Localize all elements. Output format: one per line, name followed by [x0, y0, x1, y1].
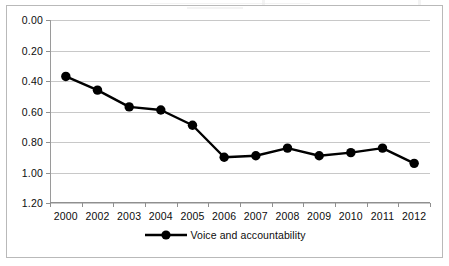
chart-legend: Voice and accountability: [7, 228, 442, 242]
scan-artifact: [150, 3, 310, 4]
scan-artifact: [418, 0, 421, 5]
plot-inner: 0.000.200.400.600.801.001.20 20002002200…: [50, 20, 430, 203]
y-axis-tick-label: 0.80: [22, 136, 43, 148]
x-axis-tick-label: 2008: [275, 210, 299, 222]
x-axis-tick-label: 2000: [54, 210, 78, 222]
data-point-marker: [409, 159, 418, 168]
data-point-marker: [378, 143, 387, 152]
y-axis-tick-label: 0.20: [22, 45, 43, 57]
x-axis-tick-mark: [367, 203, 368, 207]
x-axis-tick-mark: [303, 203, 304, 207]
data-point-marker: [61, 72, 70, 81]
line-marker-icon: [143, 228, 189, 242]
x-axis-tick-mark: [398, 203, 399, 207]
series-line: [66, 76, 414, 163]
y-axis-tick-label: 1.20: [22, 197, 43, 209]
plot-area: 0.000.200.400.600.801.001.20 20002002200…: [50, 20, 430, 203]
data-point-marker: [346, 148, 355, 157]
data-point-marker: [124, 102, 133, 111]
x-axis-tick-mark: [430, 203, 431, 207]
legend-item-voice-and-accountability[interactable]: Voice and accountability: [143, 228, 305, 242]
y-axis-tick-label: 0.00: [22, 14, 43, 26]
x-axis-tick-label: 2002: [85, 210, 109, 222]
data-point-marker: [156, 105, 165, 114]
x-axis-tick-mark: [208, 203, 209, 207]
x-axis-tick-label: 2004: [149, 210, 173, 222]
x-axis-tick-label: 2012: [402, 210, 426, 222]
x-axis-tick-label: 2006: [212, 210, 236, 222]
x-axis-tick-mark: [145, 203, 146, 207]
y-axis-tick-label: 0.40: [22, 75, 43, 87]
x-axis-tick-label: 2010: [339, 210, 363, 222]
x-axis-tick-label: 2007: [244, 210, 268, 222]
x-axis-tick-label: 2011: [371, 210, 394, 222]
x-axis-tick-label: 2003: [117, 210, 141, 222]
x-axis-tick-mark: [113, 203, 114, 207]
x-axis-tick-label: 2005: [180, 210, 204, 222]
data-point-marker: [188, 121, 197, 130]
x-axis-tick-mark: [240, 203, 241, 207]
y-axis-tick-label: 0.60: [22, 106, 43, 118]
x-axis-tick-mark: [177, 203, 178, 207]
series-voice-and-accountability: [50, 20, 430, 203]
data-point-marker: [219, 153, 228, 162]
x-axis-tick-label: 2009: [307, 210, 331, 222]
x-axis-tick-mark: [335, 203, 336, 207]
data-point-marker: [314, 151, 323, 160]
x-axis-tick-mark: [50, 203, 51, 207]
data-point-marker: [93, 85, 102, 94]
legend-label: Voice and accountability: [190, 229, 305, 241]
x-axis-tick-mark: [272, 203, 273, 207]
scan-artifact: [187, 7, 243, 9]
data-point-marker: [251, 151, 260, 160]
chart-frame: 0.000.200.400.600.801.001.20 20002002200…: [6, 5, 443, 258]
data-point-marker: [283, 143, 292, 152]
y-axis-tick-label: 1.00: [22, 167, 43, 179]
x-axis-tick-mark: [82, 203, 83, 207]
